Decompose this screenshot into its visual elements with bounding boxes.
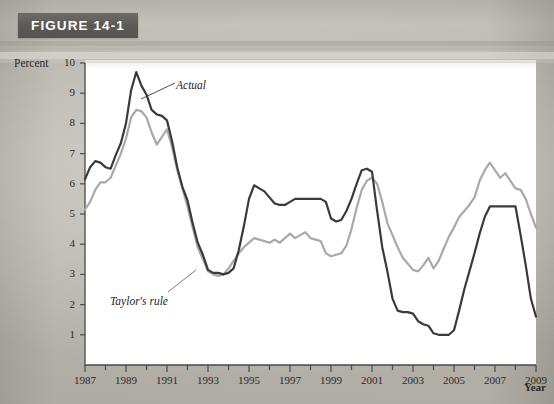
y-axis-tick-label: 4 <box>70 237 76 249</box>
taylors-rule-leader-line <box>168 270 196 292</box>
x-axis-tick-label: 2005 <box>443 374 465 386</box>
series-line-taylor-s-rule <box>85 110 536 276</box>
y-axis-title: Percent <box>14 57 48 69</box>
taylors-rule-series-label: Taylor's rule <box>110 295 168 307</box>
axis-lines <box>85 63 536 365</box>
y-axis-tick-label: 10 <box>64 56 75 68</box>
chart-axes <box>80 63 536 372</box>
x-axis-tick-label: 1989 <box>115 374 137 386</box>
x-axis-tick-label: 2001 <box>361 374 383 386</box>
x-axis-tick-label: 2009 <box>525 374 547 386</box>
x-axis-tick-label: 1993 <box>197 374 219 386</box>
line-chart <box>0 0 554 404</box>
x-axis-tick-label: 2007 <box>484 374 506 386</box>
x-axis-tick-label: 1987 <box>74 374 96 386</box>
x-axis-tick-label: 1999 <box>320 374 342 386</box>
y-axis-tick-label: 9 <box>70 86 76 98</box>
y-axis-tick-label: 2 <box>70 298 76 310</box>
y-axis-tick-label: 5 <box>70 207 76 219</box>
x-axis-tick-label: 1991 <box>156 374 178 386</box>
figure-page: FIGURE 14-1 Percent Year Actual Taylor's… <box>0 0 554 404</box>
y-axis-tick-label: 6 <box>70 177 76 189</box>
annotation-leader-lines <box>141 83 196 292</box>
y-axis-tick-label: 3 <box>70 267 76 279</box>
x-axis-tick-label: 2003 <box>402 374 424 386</box>
y-axis-tick-label: 7 <box>70 147 76 159</box>
y-axis-tick-label: 8 <box>70 116 76 128</box>
y-axis-tick-label: 1 <box>70 328 76 340</box>
x-axis-tick-label: 1995 <box>238 374 260 386</box>
actual-leader-line <box>141 83 175 99</box>
actual-series-label: Actual <box>176 79 206 91</box>
x-axis-tick-label: 1997 <box>279 374 301 386</box>
